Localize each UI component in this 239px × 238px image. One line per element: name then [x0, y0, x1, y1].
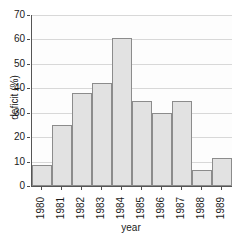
- x-tick-label: 1986: [156, 197, 166, 219]
- y-tick-label: 70: [14, 10, 25, 20]
- x-tick-mark: [161, 187, 162, 190]
- bar-cell: [72, 15, 92, 186]
- bar[interactable]: [192, 170, 212, 186]
- y-tick-mark: [27, 39, 30, 40]
- bar-cell: [32, 15, 52, 186]
- x-tick-cell: 1985: [131, 187, 151, 221]
- bar-cell: [132, 15, 152, 186]
- bar[interactable]: [152, 113, 172, 186]
- bar[interactable]: [212, 158, 232, 186]
- x-axis-ticks: 1980198119821983198419851986198719881989: [31, 187, 231, 221]
- y-tick-mark: [27, 113, 30, 114]
- x-tick-cell: 1981: [51, 187, 71, 221]
- x-tick-cell: 1984: [111, 187, 131, 221]
- y-tick-label: 30: [14, 108, 25, 118]
- x-tick-label: 1988: [196, 197, 206, 219]
- x-tick-label: 1985: [136, 197, 146, 219]
- x-tick-mark: [121, 187, 122, 190]
- x-tick-mark: [201, 187, 202, 190]
- x-tick-cell: 1982: [71, 187, 91, 221]
- x-tick-label: 1981: [56, 197, 66, 219]
- y-tick-mark: [27, 15, 30, 16]
- y-tick-mark: [27, 137, 30, 138]
- bar[interactable]: [32, 165, 52, 186]
- x-tick-mark: [41, 187, 42, 190]
- y-tick-label: 50: [14, 59, 25, 69]
- bar[interactable]: [112, 38, 132, 186]
- x-tick-label: 1982: [76, 197, 86, 219]
- x-tick-mark: [141, 187, 142, 190]
- x-axis-title: year: [31, 222, 231, 233]
- x-tick-label: 1987: [176, 197, 186, 219]
- x-tick-mark: [221, 187, 222, 190]
- y-tick-label: 40: [14, 83, 25, 93]
- y-axis-ticks: 010203040506070: [0, 0, 30, 238]
- y-tick-mark: [27, 88, 30, 89]
- y-tick-label: 60: [14, 34, 25, 44]
- x-tick-cell: 1983: [91, 187, 111, 221]
- x-tick-cell: 1989: [211, 187, 231, 221]
- bar[interactable]: [72, 93, 92, 186]
- x-tick-cell: 1988: [191, 187, 211, 221]
- x-tick-mark: [61, 187, 62, 190]
- y-tick-mark: [27, 162, 30, 163]
- y-tick-mark: [27, 64, 30, 65]
- y-tick-mark: [27, 186, 30, 187]
- x-tick-label: 1989: [216, 197, 226, 219]
- x-tick-mark: [81, 187, 82, 190]
- x-tick-label: 1980: [36, 197, 46, 219]
- x-tick-label: 1984: [116, 197, 126, 219]
- x-tick-label: 1983: [96, 197, 106, 219]
- bar-chart: deficit (%) 010203040506070 198019811982…: [0, 0, 239, 238]
- bar-cell: [192, 15, 212, 186]
- bar[interactable]: [92, 83, 112, 186]
- x-tick-cell: 1986: [151, 187, 171, 221]
- y-tick-label: 0: [19, 181, 25, 191]
- bar-cell: [152, 15, 172, 186]
- bar-cell: [92, 15, 112, 186]
- bar-cell: [212, 15, 232, 186]
- x-tick-mark: [181, 187, 182, 190]
- x-tick-cell: 1987: [171, 187, 191, 221]
- bar-cell: [52, 15, 72, 186]
- plot-area: [31, 15, 232, 187]
- x-tick-cell: 1980: [31, 187, 51, 221]
- bar[interactable]: [172, 101, 192, 187]
- bar-series: [32, 15, 232, 186]
- bar[interactable]: [52, 125, 72, 186]
- y-tick-label: 20: [14, 132, 25, 142]
- bar-cell: [112, 15, 132, 186]
- bar[interactable]: [132, 101, 152, 187]
- y-tick-label: 10: [14, 157, 25, 167]
- x-tick-mark: [101, 187, 102, 190]
- bar-cell: [172, 15, 192, 186]
